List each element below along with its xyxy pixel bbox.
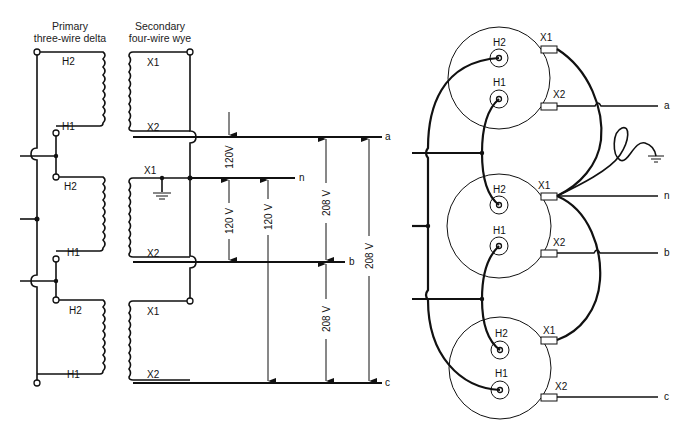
t2-label-h2: H2 (493, 184, 506, 195)
secondary-label-x1-2: X1 (144, 165, 157, 176)
secondary-header-line2: four-wire wye (129, 32, 192, 44)
right-line-label-n: n (664, 190, 670, 201)
primary-label-h1-2: H1 (67, 247, 80, 258)
right-pictorial: H2 H1 X1 X2 H2 H1 X1 X2 (412, 27, 670, 419)
transformer-1: H2 H1 X1 X2 (448, 27, 566, 129)
t1-label-h1: H1 (493, 77, 506, 88)
secondary-label-x2-2: X2 (147, 248, 160, 259)
ground-symbol-icon (648, 156, 664, 162)
transformer-2: H2 H1 X1 X2 (447, 174, 566, 278)
ground-symbol-icon (153, 193, 171, 199)
primary-label-h2-1: H2 (62, 56, 75, 67)
primary-header-line2: three-wire delta (34, 32, 107, 44)
voltage-label-a-c: 208 V (364, 243, 375, 269)
primary-label-h1-3: H1 (67, 369, 80, 380)
line-label-c: c (385, 377, 390, 388)
t3-label-x1: X1 (543, 325, 556, 336)
secondary-label-x1-3: X1 (147, 306, 160, 317)
primary-header-line1: Primary (52, 20, 89, 32)
line-label-n: n (299, 172, 305, 183)
voltage-label-n-b: 120 V (224, 208, 235, 234)
secondary-label-x2-1: X2 (147, 122, 160, 133)
t3-label-h1: H1 (495, 368, 508, 379)
secondary-label-x2-3: X2 (147, 369, 160, 380)
primary-label-h1-1: H1 (62, 121, 75, 132)
secondary-label-x1-1: X1 (147, 57, 160, 68)
secondary-header-line1: Secondary (135, 20, 186, 32)
right-line-label-a: a (664, 100, 670, 111)
secondary-coil-2 (129, 178, 190, 257)
wiring-diagram: Primary three-wire delta Secondary four-… (0, 0, 688, 436)
t1-label-x2: X2 (553, 89, 566, 100)
voltage-label-n-c: 120 V (263, 204, 274, 230)
primary-label-h2-3: H2 (69, 305, 82, 316)
right-line-label-b: b (664, 247, 670, 258)
left-schematic: Primary three-wire delta Secondary four-… (20, 20, 391, 388)
t3-label-h2: H2 (495, 328, 508, 339)
secondary-coil-1 (129, 52, 190, 131)
right-line-label-c: c (664, 391, 669, 402)
t3-label-x2: X2 (555, 381, 568, 392)
t2-label-x2: X2 (553, 237, 566, 248)
voltage-label-a-b: 208 V (321, 190, 332, 216)
t1-label-x1: X1 (540, 32, 553, 43)
line-label-b: b (349, 256, 355, 267)
transformer-3: H2 H1 X1 X2 (449, 317, 568, 419)
t2-label-h1: H1 (493, 225, 506, 236)
voltage-label-a-n: 120V (224, 145, 235, 169)
line-label-a: a (385, 131, 391, 142)
secondary-coil-3 (129, 301, 190, 380)
t1-label-h2: H2 (493, 37, 506, 48)
primary-label-h2-2: H2 (64, 181, 77, 192)
voltage-label-b-c: 208 V (321, 306, 332, 332)
t2-label-x1: X1 (538, 180, 551, 191)
